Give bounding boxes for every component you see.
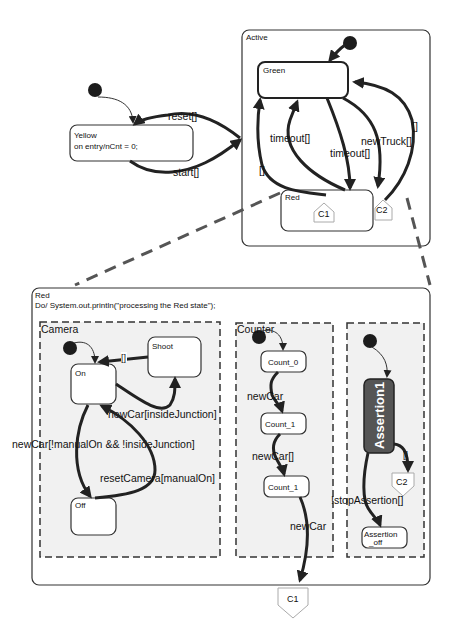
label-assertion-c2: [] [403, 450, 408, 460]
count1b-name: Count_1 [268, 483, 299, 492]
red-detail-title: Red [35, 291, 50, 300]
statechart-diagram: Yellow on entry/nCnt = 0; reset[] start[… [0, 0, 452, 622]
count1a-name: Count_1 [265, 420, 296, 429]
connector-c2-exit-label: C2 [396, 477, 408, 487]
initial-pseudostate-top [88, 83, 102, 97]
label-empty-left: [] [259, 164, 265, 176]
label-counter-1: newCar [247, 390, 284, 402]
on-name: On [75, 369, 86, 378]
label-stop-assertion: !stopAssertion[] [331, 494, 403, 506]
assertion1-name: Assertion1 [372, 382, 387, 449]
active-title: Active [246, 33, 268, 42]
label-timeout-down: timeout[] [330, 147, 370, 159]
yellow-entry: on entry/nCnt = 0; [74, 142, 138, 151]
shoot-name: Shoot [152, 342, 174, 351]
label-shoot-on: [] [121, 353, 126, 363]
label-reset: reset[] [168, 110, 197, 122]
label-newtruck: newTruck[] [361, 135, 412, 147]
green-name: Green [263, 66, 285, 75]
label-empty-right: [] [412, 120, 418, 132]
label-counter-3: newCar [290, 520, 327, 532]
connector-c1-exit-label: C1 [287, 594, 299, 604]
initial-pseudostate-active [343, 36, 357, 50]
label-reset-camera: resetCamera[manualOn] [100, 472, 215, 484]
label-counter-2: newCar[] [252, 450, 294, 462]
red-name: Red [285, 193, 300, 202]
off-name: Off [75, 501, 86, 510]
initial-assertion [363, 334, 377, 348]
counter-title: Counter [237, 323, 275, 335]
red-detail-action: Do/ System.out.println("processing the R… [35, 301, 215, 310]
count0-name: Count_0 [268, 358, 299, 367]
connector-c1-label: C1 [318, 209, 330, 219]
label-timeout-up: timeout[] [270, 132, 310, 144]
label-start: start[] [173, 166, 199, 178]
connector-c2-label: C2 [376, 205, 388, 215]
label-newcar-manual: newCar[!manualOn && !insideJunction] [12, 438, 195, 450]
yellow-name: Yellow [74, 131, 97, 140]
camera-title: Camera [41, 323, 79, 335]
assertion-off-name-2: _off [368, 538, 383, 547]
